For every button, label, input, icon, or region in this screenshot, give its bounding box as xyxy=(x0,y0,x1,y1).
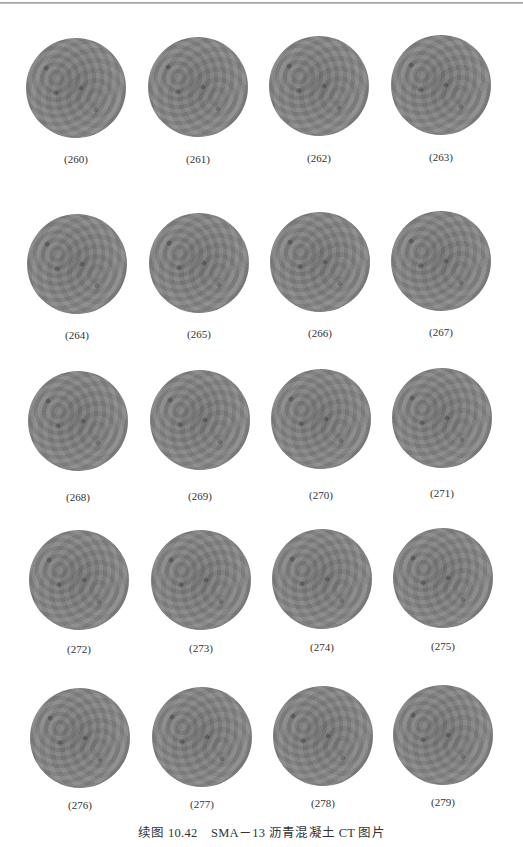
figure-label: (276) xyxy=(20,799,140,811)
ct-figure: (265) xyxy=(139,213,259,363)
ct-scan-image xyxy=(29,530,129,630)
ct-figure: (266) xyxy=(260,212,380,362)
figure-label: (274) xyxy=(262,641,382,653)
ct-figure: (261) xyxy=(138,37,258,187)
ct-scan-image xyxy=(149,213,249,313)
ct-figure: (260) xyxy=(16,38,136,188)
figure-label: (267) xyxy=(381,326,501,338)
top-rule xyxy=(0,2,523,4)
figure-label: (275) xyxy=(383,640,503,652)
ct-scan-image xyxy=(27,214,127,314)
ct-figure: (279) xyxy=(383,685,503,835)
figure-label: (273) xyxy=(141,642,261,654)
ct-figure: (277) xyxy=(142,687,262,837)
ct-figure: (274) xyxy=(262,529,382,679)
ct-scan-image xyxy=(393,528,493,628)
figure-label: (270) xyxy=(261,489,381,501)
ct-figure: (269) xyxy=(140,370,260,520)
ct-figure: (267) xyxy=(381,211,501,361)
figure-label: (261) xyxy=(138,153,258,165)
figure-label: (279) xyxy=(383,796,503,808)
ct-scan-image xyxy=(271,369,371,469)
ct-scan-image xyxy=(28,371,128,471)
figure-label: (268) xyxy=(18,491,138,503)
ct-scan-image xyxy=(391,211,491,311)
ct-scan-image xyxy=(26,38,126,138)
figure-caption: 续图 10.42 SMA－13 沥青混凝土 CT 图片 xyxy=(0,822,523,841)
figure-label: (260) xyxy=(16,153,136,165)
ct-figure: (263) xyxy=(381,35,501,185)
ct-figure: (262) xyxy=(259,36,379,186)
ct-figure: (278) xyxy=(263,686,383,836)
ct-scan-image xyxy=(150,370,250,470)
figure-label: (278) xyxy=(263,797,383,809)
figure-label: (277) xyxy=(142,798,262,810)
figure-label: (272) xyxy=(19,643,139,655)
ct-figure: (268) xyxy=(18,371,138,521)
ct-figure: (271) xyxy=(382,368,502,518)
ct-scan-image xyxy=(272,529,372,629)
ct-scan-image xyxy=(30,688,130,788)
figure-label: (271) xyxy=(382,487,502,499)
ct-scan-image xyxy=(270,212,370,312)
ct-scan-image xyxy=(148,37,248,137)
ct-scan-image xyxy=(393,685,493,785)
figure-label: (264) xyxy=(17,329,137,341)
ct-scan-image xyxy=(391,35,491,135)
ct-figure: (276) xyxy=(20,688,140,838)
figure-label: (262) xyxy=(259,152,379,164)
ct-scan-image xyxy=(152,687,252,787)
ct-figure: (273) xyxy=(141,530,261,680)
ct-scan-image xyxy=(269,36,369,136)
figure-label: (265) xyxy=(139,328,259,340)
ct-figure: (275) xyxy=(383,528,503,678)
ct-figure: (264) xyxy=(17,214,137,364)
ct-figure: (272) xyxy=(19,530,139,680)
ct-scan-image xyxy=(151,530,251,630)
figure-label: (263) xyxy=(381,151,501,163)
figure-label: (266) xyxy=(260,327,380,339)
ct-scan-image xyxy=(273,686,373,786)
ct-figure: (270) xyxy=(261,369,381,519)
figure-label: (269) xyxy=(140,490,260,502)
ct-scan-image xyxy=(392,368,492,468)
